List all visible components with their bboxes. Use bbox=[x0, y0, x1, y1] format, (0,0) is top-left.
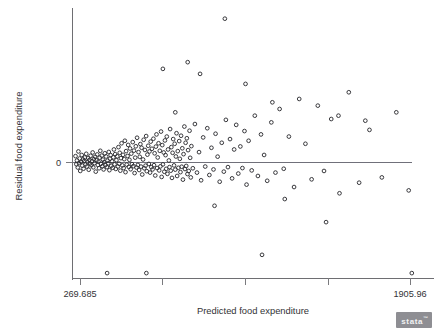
x-tick-label-max: 1905.96 bbox=[393, 289, 426, 299]
stata-logo-text: stata bbox=[401, 317, 423, 326]
stata-logo: stata™ bbox=[396, 312, 432, 328]
scatter-plot-figure: 0 269.685 1905.96 Predicted food expendi… bbox=[0, 0, 436, 334]
x-axis-title: Predicted food expenditure bbox=[197, 305, 309, 316]
figure-background bbox=[0, 0, 436, 334]
y-axis-title: Residual food expenditure bbox=[13, 92, 24, 201]
y-tick-label-zero: 0 bbox=[56, 158, 61, 168]
trademark-symbol: ™ bbox=[423, 315, 428, 321]
x-tick-label-min: 269.685 bbox=[63, 289, 96, 299]
chart-canvas: 0 269.685 1905.96 Predicted food expendi… bbox=[0, 0, 436, 334]
